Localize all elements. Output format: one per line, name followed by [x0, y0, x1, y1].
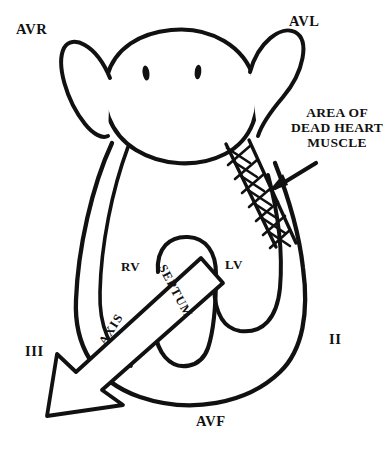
hollow-axis-arrow-icon — [47, 258, 223, 416]
heart-drawing — [0, 0, 392, 454]
lead-label-iii: III — [25, 343, 44, 359]
cardiac-axis-diagram: AVR AVL II III AVF RV LV SEPTUM AXIS ARE… — [0, 0, 392, 454]
chamber-label-lv: LV — [225, 258, 243, 273]
dead-muscle-callout: AREA OF DEAD HEART MUSCLE — [291, 105, 383, 150]
callout-line-1: AREA OF — [291, 105, 383, 120]
lead-label-avr: AVR — [16, 21, 47, 37]
lead-label-avl: AVL — [289, 13, 320, 29]
lead-label-ii: II — [329, 331, 342, 347]
chamber-label-rv: RV — [121, 260, 140, 275]
lv-inner-wall — [214, 175, 281, 331]
right-atrial-appendage — [61, 42, 110, 137]
callout-line-2: DEAD HEART — [291, 120, 383, 135]
atrium-outline — [104, 30, 257, 164]
lead-label-avf: AVF — [196, 413, 226, 429]
callout-line-3: MUSCLE — [291, 135, 383, 150]
